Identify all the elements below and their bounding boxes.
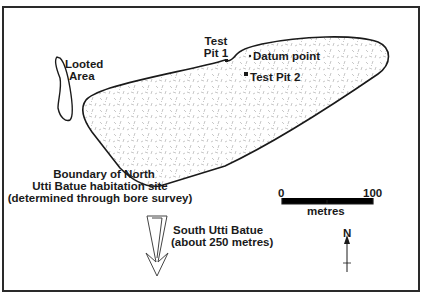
boundary-label: Boundary of North Utti Batue habitation … (5, 168, 195, 204)
scale-max-label: 100 (363, 187, 382, 199)
test-pit-1-marker (225, 59, 228, 62)
site-boundary (83, 37, 389, 186)
north-arrow-icon (343, 235, 351, 272)
scale-unit-label: metres (307, 205, 345, 217)
test-pit-2-label: Test Pit 2 (250, 71, 300, 83)
looted-area-label: Looted Area (65, 58, 103, 82)
test-pit-1-label: Test Pit 1 (201, 35, 231, 59)
datum-point-label: Datum point (253, 50, 320, 62)
test-pit-2-marker (244, 72, 248, 76)
south-arrow (146, 216, 168, 276)
north-label: N (343, 227, 351, 239)
datum-point-marker (249, 55, 251, 57)
south-site-label: South Utti Batue (about 250 metres) (171, 224, 273, 248)
scale-min-label: 0 (278, 187, 284, 199)
scale-bar (282, 198, 373, 204)
